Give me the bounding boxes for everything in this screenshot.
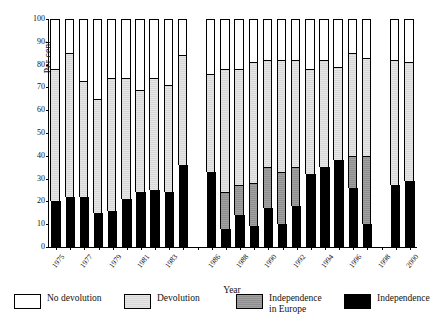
y-axis-tick-label: 70 <box>37 83 45 91</box>
bar-segment <box>405 181 414 247</box>
bar-group <box>49 19 417 247</box>
bar-segment <box>278 224 287 247</box>
legend-item: Independence in Europe <box>236 293 322 314</box>
x-axis-tick-mark <box>410 247 411 250</box>
bar <box>391 19 400 247</box>
bar <box>108 19 117 247</box>
bar <box>278 19 287 247</box>
x-axis-tick-mark <box>396 247 397 250</box>
bar-segment <box>349 188 358 247</box>
bar-segment <box>150 190 159 247</box>
bar-segment <box>292 206 301 247</box>
bar-segment <box>263 167 272 208</box>
bar-segment <box>277 172 286 224</box>
x-axis-tick-label: 1988 <box>235 253 250 269</box>
bar-segment <box>220 192 229 228</box>
bar-segment <box>206 19 215 74</box>
x-axis-tick-label: 1992 <box>291 253 306 269</box>
bar-segment <box>234 19 243 69</box>
bar <box>66 19 75 247</box>
bar-segment <box>207 172 216 247</box>
y-axis-tick-label: 60 <box>37 106 45 114</box>
bar-segment <box>221 229 230 247</box>
bar-segment <box>108 211 117 247</box>
x-axis-tick-mark <box>353 247 354 250</box>
bar-segment <box>391 185 400 247</box>
bar-segment <box>93 19 102 99</box>
legend-label: No devolution <box>47 293 102 304</box>
x-axis-tick-mark <box>70 247 71 250</box>
bar <box>292 19 301 247</box>
bar <box>349 19 358 247</box>
bar-segment <box>220 69 229 192</box>
y-axis-tick-label: 20 <box>37 197 45 205</box>
bar-segment <box>348 156 357 188</box>
bar-segment <box>333 67 342 160</box>
x-axis-tick-mark <box>212 247 213 250</box>
x-axis-tick-label: 1994 <box>320 253 335 269</box>
x-axis-tick-mark <box>113 247 114 250</box>
bar-segment <box>249 19 258 62</box>
bar-segment <box>404 62 413 181</box>
bar-segment <box>107 19 116 78</box>
bar <box>165 19 174 247</box>
legend-swatch <box>344 294 371 309</box>
bar-segment <box>362 58 371 156</box>
bar-segment <box>390 19 399 60</box>
x-axis-tick-label: 1990 <box>263 253 278 269</box>
x-axis-tick-mark <box>84 247 85 250</box>
bar <box>320 19 329 247</box>
bar-segment <box>164 19 173 85</box>
bar-segment <box>94 213 103 247</box>
bar-segment <box>404 19 413 62</box>
x-axis-tick-mark <box>99 247 100 250</box>
bar-segment <box>79 81 88 197</box>
bar <box>405 19 414 247</box>
bar-segment <box>165 192 174 247</box>
y-axis-tick-label: 0 <box>41 243 45 251</box>
y-axis-tick-label: 30 <box>37 175 45 183</box>
bar-segment <box>362 19 371 58</box>
bar-segment <box>348 19 357 53</box>
bar-segment <box>348 53 357 156</box>
x-axis-tick-mark <box>367 247 368 250</box>
x-axis-tick-mark <box>240 247 241 250</box>
bar-segment <box>121 78 130 199</box>
legend-swatch <box>236 294 263 309</box>
bar <box>363 19 372 247</box>
x-axis-tick-mark <box>155 247 156 250</box>
x-axis-tick-label: 1996 <box>348 253 363 269</box>
bar-segment <box>178 55 187 164</box>
bar-segment <box>135 19 144 90</box>
x-axis-tick-label: 1979 <box>107 253 122 269</box>
bar-segment <box>51 201 60 247</box>
bar <box>306 19 315 247</box>
x-axis-tick-mark <box>198 247 199 250</box>
x-axis-tick-mark <box>254 247 255 250</box>
bar-segment <box>319 19 328 60</box>
x-axis-tick-mark <box>268 247 269 250</box>
bar-segment <box>164 85 173 192</box>
bar-segment <box>149 19 158 78</box>
bar-segment <box>291 167 300 206</box>
bar-segment <box>306 174 315 247</box>
x-axis-tick-label: 1977 <box>79 253 94 269</box>
bar-segment <box>249 183 258 226</box>
bar <box>179 19 188 247</box>
x-axis-tick-mark <box>127 247 128 250</box>
bar <box>264 19 273 247</box>
bar-segment <box>362 156 371 224</box>
bar-segment <box>121 19 130 78</box>
x-axis-tick-mark <box>311 247 312 250</box>
bar <box>235 19 244 247</box>
legend-item: Devolution <box>124 293 200 309</box>
x-axis-tick-label: 1986 <box>207 253 222 269</box>
legend-item: No devolution <box>14 293 102 309</box>
bar-segment <box>93 99 102 213</box>
bar <box>122 19 131 247</box>
bar <box>150 19 159 247</box>
legend-item: Independence <box>344 293 430 309</box>
y-axis-tick-label: 50 <box>37 129 45 137</box>
bar-segment <box>149 78 158 190</box>
bar-segment <box>234 185 243 215</box>
